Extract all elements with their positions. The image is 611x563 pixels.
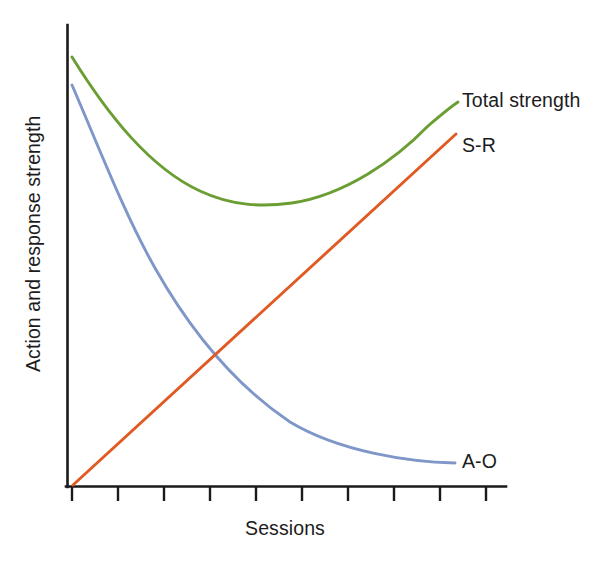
y-axis-title: Action and response strength xyxy=(24,115,44,371)
x-axis-ticks xyxy=(72,487,486,501)
series-curve-total-strength xyxy=(72,57,458,205)
y-axis-title-container: Action and response strength xyxy=(13,0,55,487)
series-label-s-r: S-R xyxy=(462,136,496,156)
chart-figure: Total strength S-R A-O Sessions Action a… xyxy=(0,0,611,563)
series-curve-a-o xyxy=(72,85,455,463)
chart-plot-area xyxy=(0,0,611,563)
series-label-a-o: A-O xyxy=(462,452,497,472)
series-label-total-strength: Total strength xyxy=(462,91,580,111)
x-axis-title: Sessions xyxy=(0,519,570,539)
series-line-s-r xyxy=(73,134,456,485)
